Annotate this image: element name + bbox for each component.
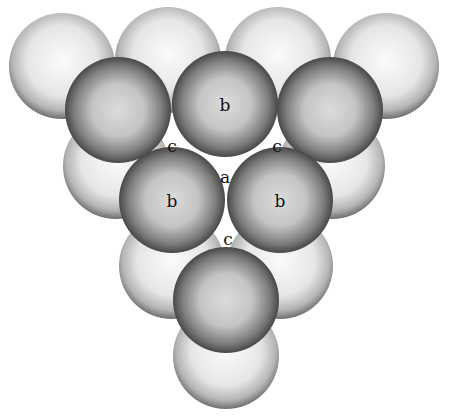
diagram-canvas: bbb ccac <box>0 0 449 417</box>
sphere-label-b: b <box>220 95 231 115</box>
site-label-c: c <box>272 136 282 156</box>
site-label-a: a <box>220 167 230 187</box>
upper-sphere <box>173 247 279 353</box>
sphere-label-b: b <box>275 191 286 211</box>
upper-sphere <box>277 57 383 163</box>
sphere-label-b: b <box>167 191 178 211</box>
upper-sphere <box>65 57 171 163</box>
site-label-c: c <box>167 136 177 156</box>
site-label-c: c <box>223 229 233 249</box>
sphere-packing-diagram: bbb ccac <box>0 0 449 417</box>
